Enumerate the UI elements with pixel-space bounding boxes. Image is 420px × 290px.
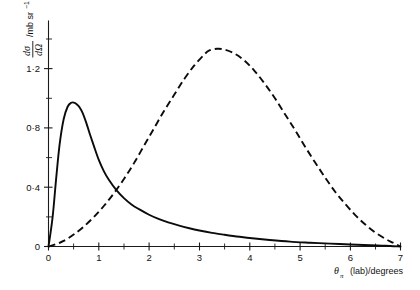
x-tick-label-2: 2 (146, 252, 151, 263)
x-tick-label-6: 6 (348, 252, 353, 263)
x-tick-label-0: 0 (46, 252, 51, 263)
x-axis-title-subscript: π (340, 272, 344, 280)
y-axis-title-units-exponent: −1 (23, 1, 30, 9)
y-axis-title-units: /mb sr (25, 12, 35, 37)
x-axis-title-symbol: θ (334, 265, 339, 276)
y-axis-title-numerator: dσ (21, 45, 32, 56)
cross-section-plot: 0 0·4 0·8 1·2 0 1 2 3 4 5 6 7 dσ dΩ /mb … (0, 0, 420, 290)
x-tick-label-7: 7 (398, 252, 403, 263)
y-tick-label-3: 1·2 (26, 63, 40, 74)
y-tick-label-0: 0 (35, 241, 40, 252)
y-axis-title-denominator: dΩ (33, 44, 44, 56)
x-tick-label-3: 3 (197, 252, 202, 263)
x-tick-label-4: 4 (247, 252, 252, 263)
y-tick-label-2: 0·8 (26, 122, 40, 133)
x-tick-label-1: 1 (96, 252, 101, 263)
x-axis-title-rest: (lab)/degrees (350, 266, 404, 276)
x-tick-label-5: 5 (297, 252, 302, 263)
y-tick-label-1: 0·4 (26, 182, 40, 193)
